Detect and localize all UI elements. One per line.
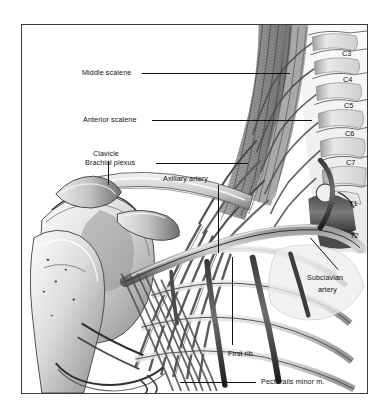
figure-root: Middle scalene Anterior scalene Brachial… — [0, 0, 389, 419]
label-middle-scalene: Middle scalene — [82, 69, 131, 78]
vertebra-label-t2: T2 — [350, 231, 359, 240]
anatomy-illustration — [22, 25, 367, 393]
vertebra-label-c5: C5 — [344, 101, 353, 110]
vertebra-label-t1: T1 — [349, 199, 358, 208]
vertebra-label-c6: C6 — [345, 129, 354, 138]
label-brachial-plexus: Brachial plexus — [85, 159, 135, 168]
vertebra-label-c4: C4 — [343, 75, 352, 84]
label-subclavian-artery-line2: artery — [318, 286, 337, 295]
label-axillary-artery: Axillary artery — [163, 175, 208, 184]
vertebra-label-c3: C3 — [342, 49, 351, 58]
leader-first-rib — [232, 257, 233, 345]
vertebra-label-c7: C7 — [346, 158, 355, 167]
leader-axillary-artery — [218, 185, 219, 253]
label-pectoralis-minor: Pectoralis minor m. — [261, 378, 324, 387]
leader-middle-scalene — [142, 73, 290, 74]
leader-anterior-scalene — [152, 120, 312, 121]
label-first-rib: First rib — [228, 350, 253, 359]
label-subclavian-artery-line1: Subclavian — [307, 274, 343, 283]
label-clavicle: Clavicle — [93, 150, 119, 159]
illustration-frame: Middle scalene Anterior scalene Brachial… — [21, 24, 368, 394]
leader-pectoralis-minor — [180, 382, 256, 383]
leader-brachial-plexus — [156, 163, 248, 164]
label-anterior-scalene: Anterior scalene — [83, 116, 137, 125]
